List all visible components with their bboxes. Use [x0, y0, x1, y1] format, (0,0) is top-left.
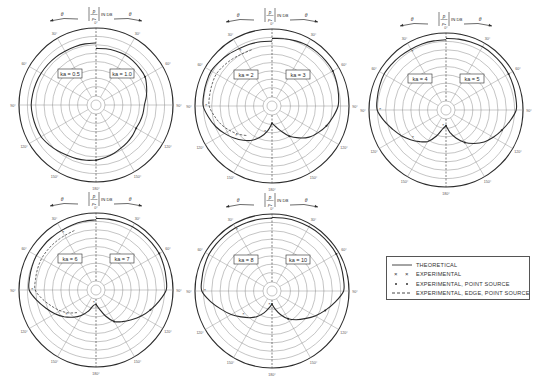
theta-left-label: θ	[237, 197, 240, 203]
experimental-point-marker	[144, 76, 146, 78]
arrow-right-icon	[464, 23, 492, 26]
arrow-right-icon	[114, 203, 142, 206]
angle-tick-label: 180°	[268, 373, 276, 377]
angle-tick-label: 60°	[515, 67, 521, 71]
grid-ring-inner	[263, 97, 281, 115]
grid-spoke	[451, 43, 485, 102]
theoretical-curve-left	[29, 220, 96, 317]
experimental-marker: ×	[31, 286, 34, 291]
experimental-point-marker	[158, 253, 160, 255]
angle-tick-label: 30°	[135, 217, 141, 221]
angle-tick-label: 30°	[485, 37, 491, 41]
grid-ring-inner	[263, 282, 281, 300]
angle-tick-label: 60°	[165, 62, 171, 66]
ka-label-right: ka = 5	[464, 76, 479, 82]
experimental-marker: ×	[412, 134, 415, 139]
angle-tick-label: 0°	[94, 206, 98, 210]
experimental-marker: ×	[239, 47, 242, 52]
experimental-marker: ×	[93, 299, 96, 304]
legend: THEORETICAL ×× EXPERIMENTAL EXPERIMENTAL…	[386, 256, 530, 300]
db-unit-label: IN DB	[277, 13, 289, 18]
angle-tick-label: 30°	[228, 33, 234, 37]
ratio-denominator: p₀	[91, 16, 96, 21]
ka-label-left: ka = 0.5	[60, 71, 80, 77]
angle-tick-label: 30°	[311, 218, 317, 222]
grid-ring-inner	[87, 96, 105, 114]
arrowhead-right-icon	[489, 24, 492, 27]
svg-text:×: ×	[405, 271, 409, 277]
angle-tick-label: 180°	[268, 188, 276, 192]
ratio-numerator: p	[92, 9, 96, 14]
grid-spoke	[277, 224, 311, 283]
arrow-left-icon	[400, 23, 428, 26]
theta-right-label: θ	[305, 12, 308, 18]
arrowhead-right-icon	[315, 20, 318, 23]
experimental-marker: ×	[204, 287, 207, 292]
polar-plot-1: 0°30°30°60°60°90°90°120°120°150°150°180°…	[10, 7, 182, 191]
arrow-right-icon	[290, 204, 318, 207]
grid-ring-center	[267, 101, 277, 111]
angle-tick-label: 0°	[444, 26, 448, 30]
ka-label-right: ka = 10	[289, 257, 307, 263]
angle-tick-label: 180°	[442, 192, 450, 196]
grid-spoke	[277, 299, 311, 358]
theta-right-label: θ	[129, 196, 132, 202]
grid-spoke	[58, 113, 92, 172]
ka-label-left: ka = 4	[412, 76, 427, 82]
ka-label-left: ka = 6	[62, 256, 77, 262]
grid-ring-center	[91, 285, 101, 295]
grid-spoke	[280, 111, 339, 145]
polar-plot-5: 0°30°30°60°60°90°90°120°120°150°150°180°…	[186, 193, 358, 377]
theoretical-curve-left	[31, 43, 96, 160]
angle-tick-label: 30°	[52, 32, 58, 36]
angle-tick-label: 30°	[228, 218, 234, 222]
ka-label-left: ka = 8	[238, 257, 253, 263]
arrowhead-right-icon	[139, 19, 142, 22]
experimental-point-marker	[135, 127, 137, 129]
theta-left-label: θ	[61, 11, 64, 17]
db-unit-label: IN DB	[451, 17, 463, 22]
grid-spoke	[29, 110, 88, 144]
ka-label-left: ka = 2	[238, 72, 253, 78]
angle-tick-label: 90°	[10, 289, 16, 293]
grid-spoke	[234, 114, 268, 173]
angle-tick-label: 60°	[197, 248, 203, 252]
grid-ring-inner	[437, 101, 455, 119]
arrow-left-icon	[226, 204, 254, 207]
legend-item-experimental-edge-point-source: EXPERIMENTAL, EDGE, POINT SOURCE	[391, 289, 525, 299]
angle-tick-label: 180°	[92, 372, 100, 376]
ratio-numerator: p	[268, 10, 272, 15]
db-unit-label: IN DB	[277, 198, 289, 203]
angle-tick-label: 150°	[134, 360, 142, 364]
grid-spoke	[104, 110, 163, 144]
theoretical-curve-left	[377, 40, 446, 142]
theta-left-label: θ	[61, 196, 64, 202]
ratio-denominator: p₀	[267, 17, 272, 22]
experimental-edge-curve	[35, 231, 77, 313]
experimental-point-marker	[445, 125, 447, 127]
angle-tick-label: 150°	[134, 175, 142, 179]
angle-tick-label: 60°	[165, 247, 171, 251]
theoretical-curve-right	[446, 38, 517, 143]
angle-tick-label: 120°	[20, 330, 28, 334]
experimental-point-marker	[271, 122, 273, 124]
grid-ring-center	[91, 100, 101, 110]
legend-label: THEORETICAL	[416, 262, 457, 268]
legend-label: EXPERIMENTAL	[416, 271, 461, 277]
experimental-point-marker	[501, 129, 503, 131]
db-unit-label: IN DB	[101, 12, 113, 17]
angle-tick-label: 120°	[164, 145, 172, 149]
angle-tick-label: 60°	[341, 248, 347, 252]
experimental-point-marker	[335, 253, 337, 255]
angle-tick-label: 90°	[352, 105, 358, 109]
ratio-numerator: p	[268, 195, 272, 200]
theta-left-label: θ	[237, 12, 240, 18]
angle-tick-label: 120°	[340, 146, 348, 150]
angle-tick-label: 0°	[270, 207, 274, 211]
grid-spoke	[280, 296, 339, 330]
grid-spoke	[408, 118, 442, 177]
experimental-point-marker	[324, 309, 326, 311]
angle-tick-label: 0°	[94, 21, 98, 25]
ka-label-right: ka = 7	[114, 256, 129, 262]
polar-plot-2: 0°30°30°60°60°90°90°120°120°150°150°180°…	[186, 8, 358, 192]
